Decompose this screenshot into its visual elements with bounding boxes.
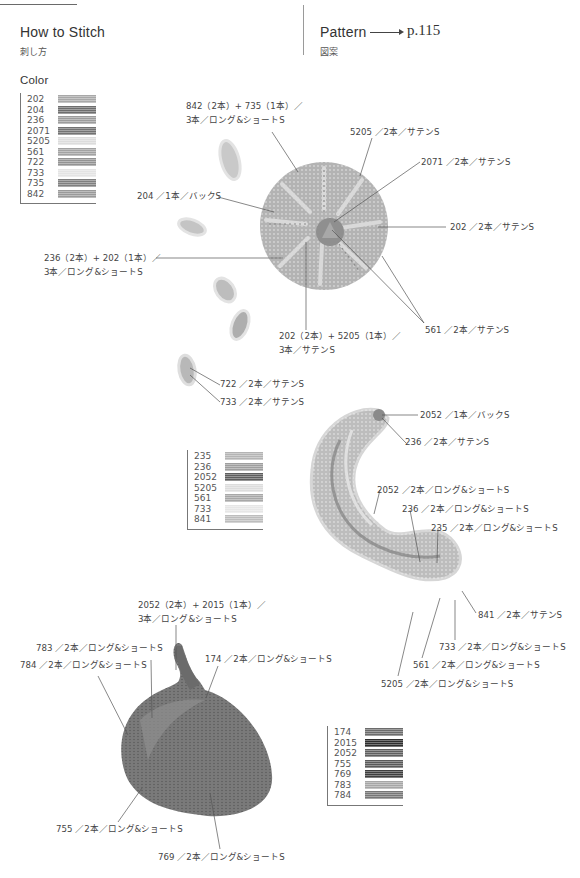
thread-code: 202 xyxy=(27,94,58,104)
legend-row: 841 xyxy=(194,514,263,524)
legend-row: 733 xyxy=(27,168,96,178)
thread-swatch xyxy=(365,739,403,747)
annotation-174: 174 ／2本／ロング&ショートS xyxy=(205,652,332,666)
legend-row: 735 xyxy=(27,178,96,188)
annotation-733: 733 ／2本／サテンS xyxy=(220,395,304,409)
thread-code: 755 xyxy=(334,759,365,769)
annotation-2052-back: 2052 ／1本／バックS xyxy=(420,408,510,422)
legend-row: 2015 xyxy=(334,738,403,748)
annotation-783: 783 ／2本／ロング&ショートS xyxy=(36,641,163,655)
thread-swatch xyxy=(58,116,96,124)
legend-row: 2052 xyxy=(334,748,403,758)
annotation-842-735-line2: 3本／ロング&ショートS xyxy=(186,113,285,127)
legend-row: 235 xyxy=(194,451,263,461)
thread-swatch xyxy=(58,169,96,177)
thread-swatch xyxy=(365,728,403,736)
thread-code: 2071 xyxy=(27,126,58,136)
thread-code: 204 xyxy=(27,105,58,115)
thread-swatch xyxy=(225,515,263,523)
thread-code: 769 xyxy=(334,769,365,779)
legend-row: 733 xyxy=(194,504,263,514)
thread-code: 784 xyxy=(334,790,365,800)
pattern-page-link[interactable]: p.115 xyxy=(407,22,440,39)
thread-swatch xyxy=(58,106,96,114)
thread-swatch xyxy=(58,158,96,166)
annotation-841: 841 ／2本／サテンS xyxy=(478,608,562,622)
thread-code: 735 xyxy=(27,178,58,188)
legend-row: 783 xyxy=(334,780,403,790)
legend-row: 236 xyxy=(194,462,263,472)
thread-code: 733 xyxy=(194,504,225,514)
drop-shapes xyxy=(176,138,252,386)
flower-embroidery xyxy=(260,162,388,290)
thread-code: 2052 xyxy=(334,748,365,758)
legend-row: 2071 xyxy=(27,126,96,136)
pattern-subtitle: 図案 xyxy=(320,45,338,58)
legend-row: 204 xyxy=(27,105,96,115)
legend-row: 174 xyxy=(334,727,403,737)
annotation-2052-long-short: 2052 ／2本／ロング&ショートS xyxy=(377,483,509,497)
legend-row: 769 xyxy=(334,769,403,779)
color-legend-flower: 202 204 236 2071 5205 561 722 733 735 84… xyxy=(20,93,96,204)
thread-code: 2015 xyxy=(334,738,365,748)
annotation-755: 755 ／2本／ロング&ショートS xyxy=(56,822,183,836)
annotation-5205-long-short: 5205 ／2本／ロング&ショートS xyxy=(381,677,513,691)
color-legend-onion: 174 2015 2052 755 769 783 784 xyxy=(327,726,403,806)
how-to-stitch-title: How to Stitch xyxy=(20,24,105,40)
thread-swatch xyxy=(365,770,403,778)
legend-row: 842 xyxy=(27,189,96,199)
annotation-2052-2015-line1: 2052（2本）+ 2015（1本）／ xyxy=(138,598,266,612)
annotation-733-long-short: 733 ／2本／ロング&ショートS xyxy=(439,640,566,654)
color-heading: Color xyxy=(20,74,48,86)
annotation-236-202-line2: 3本／ロング&ショートS xyxy=(44,265,143,279)
legend-row: 561 xyxy=(194,493,263,503)
thread-code: 5205 xyxy=(27,136,58,146)
annotation-561: 561 ／2本／サテンS xyxy=(425,323,509,337)
legend-row: 202 xyxy=(27,94,96,104)
legend-row: 755 xyxy=(334,759,403,769)
annotation-202-5205-line1: 202（2本）+ 5205（1本）／ xyxy=(279,329,401,343)
thread-code: 842 xyxy=(27,189,58,199)
thread-code: 236 xyxy=(27,115,58,125)
thread-swatch xyxy=(225,452,263,460)
thread-code: 841 xyxy=(194,514,225,524)
header-divider xyxy=(303,5,304,55)
pattern-title: Pattern xyxy=(320,24,367,40)
arrow-head-icon xyxy=(399,29,404,35)
color-legend-tail: 235 236 2052 5205 561 733 841 xyxy=(187,450,263,530)
thread-code: 561 xyxy=(194,493,225,503)
thread-swatch xyxy=(58,148,96,156)
thread-swatch xyxy=(225,505,263,513)
thread-swatch xyxy=(225,494,263,502)
legend-row: 5205 xyxy=(27,136,96,146)
annotation-202: 202 ／2本／サテンS xyxy=(450,220,534,234)
thread-swatch xyxy=(58,190,96,198)
annotation-202-5205-line2: 3本／サテンS xyxy=(279,343,335,357)
annotation-722: 722 ／2本／サテンS xyxy=(220,377,304,391)
thread-code: 235 xyxy=(194,451,225,461)
annotation-842-735-line1: 842（2本）+ 735（1本）／ xyxy=(186,99,303,113)
annotation-236-202-line1: 236（2本）+ 202（1本）／ xyxy=(44,251,161,265)
how-to-stitch-subtitle: 刺し方 xyxy=(20,45,47,58)
annotation-235-long-short: 235 ／2本／ロング&ショートS xyxy=(431,521,558,535)
thread-code: 783 xyxy=(334,780,365,790)
thread-swatch xyxy=(365,760,403,768)
thread-swatch xyxy=(225,473,263,481)
annotation-5205: 5205 ／2本／サテンS xyxy=(350,125,440,139)
thread-code: 2052 xyxy=(194,472,225,482)
thread-swatch xyxy=(58,127,96,135)
thread-code: 733 xyxy=(27,168,58,178)
legend-row: 5205 xyxy=(194,483,263,493)
thread-code: 561 xyxy=(27,147,58,157)
annotation-769: 769 ／2本／ロング&ショートS xyxy=(158,850,285,864)
thread-swatch xyxy=(58,95,96,103)
top-rule xyxy=(0,4,77,5)
annotation-784: 784 ／2本／ロング&ショートS xyxy=(20,658,147,672)
thread-code: 174 xyxy=(334,727,365,737)
legend-row: 236 xyxy=(27,115,96,125)
annotation-561-long-short: 561 ／2本／ロング&ショートS xyxy=(413,658,540,672)
annotation-2071: 2071 ／2本／サテンS xyxy=(421,155,511,169)
thread-code: 236 xyxy=(194,462,225,472)
annotation-204: 204 ／1本／バックS xyxy=(137,189,221,203)
thread-swatch xyxy=(225,484,263,492)
